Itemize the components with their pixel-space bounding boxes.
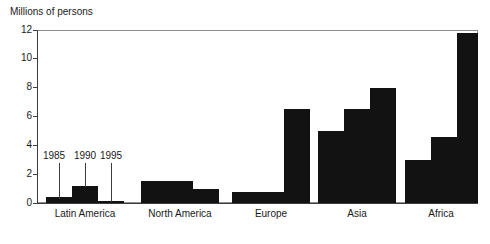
bar-north-america-1990	[167, 181, 193, 203]
bar-asia-1990	[344, 109, 370, 203]
bar-europe-1995	[284, 109, 310, 203]
bar-chart: Millions of persons 0 2 4 6 8 10 12	[0, 0, 490, 244]
leader-line-1990	[85, 163, 86, 187]
bar-latin-america-1990	[72, 186, 98, 203]
bar-north-america-1985	[141, 181, 167, 203]
bar-africa-1985	[405, 160, 431, 203]
leader-line-1985	[59, 163, 60, 199]
annotation-year-1985: 1985	[38, 150, 70, 161]
bar-asia-1995	[370, 88, 396, 203]
bar-asia-1985	[318, 131, 344, 203]
bar-north-america-1995	[193, 189, 219, 203]
leader-line-1995	[111, 163, 112, 202]
annotation-year-1995: 1995	[95, 150, 127, 161]
bar-europe-1985	[232, 192, 258, 203]
bar-europe-1990	[258, 192, 284, 203]
bar-africa-1995	[457, 33, 478, 203]
bar-africa-1990	[431, 137, 457, 203]
x-category-label-africa: Africa	[381, 208, 490, 220]
